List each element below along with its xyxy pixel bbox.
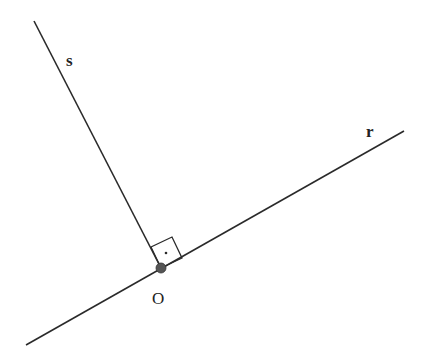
line-r-label: r [366,122,374,141]
line-r [26,131,404,345]
point-o [156,263,166,273]
point-o-label: O [152,289,164,308]
perpendicular-lines-diagram: r s O [0,0,427,362]
line-s-label: s [66,51,73,70]
line-s [34,21,161,268]
right-angle-dot [165,252,168,255]
diagram-canvas: r s O [0,0,427,362]
